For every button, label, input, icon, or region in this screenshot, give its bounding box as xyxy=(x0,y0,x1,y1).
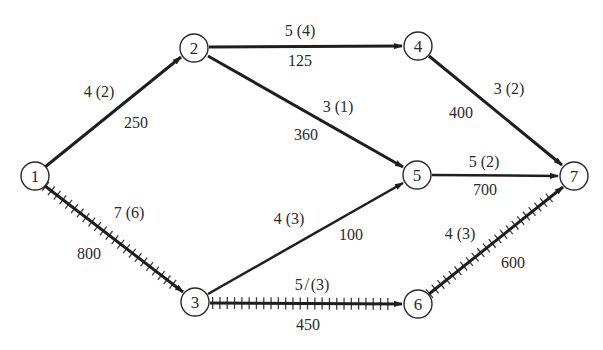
edge-1-2-duration: 4 (2) xyxy=(84,83,115,101)
edge-2-5-cost: 360 xyxy=(294,126,318,143)
node-1: 1 xyxy=(21,162,49,190)
edge-1-3-critical xyxy=(45,186,183,292)
svg-text:4: 4 xyxy=(414,37,423,56)
svg-text:1: 1 xyxy=(31,167,40,186)
edge-2-4-cost: 125 xyxy=(288,52,312,69)
edge-6-7-cost: 600 xyxy=(501,254,525,271)
svg-text:3: 3 xyxy=(191,293,200,312)
edge-4-7-cost: 400 xyxy=(449,104,473,121)
network-diagram: 1 2 3 4 5 6 7 4 (2) 250 7 (6) 800 5 (4) … xyxy=(0,0,603,350)
edge-3-5-cost: 100 xyxy=(339,226,363,243)
edge-5-7 xyxy=(432,175,558,176)
edge-3-6-critical xyxy=(210,303,402,304)
edge-1-3-cost: 800 xyxy=(77,245,101,262)
node-6: 6 xyxy=(404,290,432,318)
node-3: 3 xyxy=(181,288,209,316)
edge-2-5 xyxy=(208,56,403,167)
edge-3-5-duration: 4 (3) xyxy=(274,210,305,228)
svg-text:7: 7 xyxy=(570,167,579,186)
edge-2-4 xyxy=(209,46,402,47)
edge-6-7-duration: 4 (3) xyxy=(445,225,476,243)
node-2: 2 xyxy=(180,34,208,62)
node-7: 7 xyxy=(560,162,588,190)
edge-2-4-duration: 5 (4) xyxy=(285,22,316,40)
edge-2-5-duration: 3 (1) xyxy=(323,98,354,116)
edge-3-6-cost: 450 xyxy=(296,316,320,333)
svg-text:2: 2 xyxy=(190,39,199,58)
edge-5-7-duration: 5 (2) xyxy=(469,153,500,171)
edge-1-3-duration: 7 (6) xyxy=(114,204,145,222)
node-4: 4 xyxy=(404,32,432,60)
edge-5-7-cost: 700 xyxy=(473,181,497,198)
svg-text:5: 5 xyxy=(413,166,422,185)
edge-3-6-duration: 5 ̸ (3) xyxy=(295,276,330,294)
edge-4-7-duration: 3 (2) xyxy=(494,80,525,98)
svg-text:6: 6 xyxy=(414,295,423,314)
edge-1-2 xyxy=(45,57,181,167)
edge-1-2-cost: 250 xyxy=(124,114,148,131)
node-5: 5 xyxy=(403,161,431,189)
